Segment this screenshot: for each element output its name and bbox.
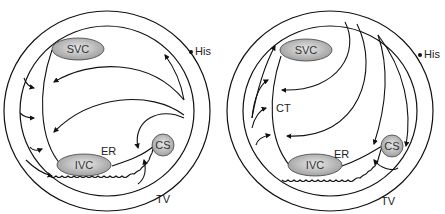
diagram-canvas: SVC IVC CS ER His TV SVC [0, 0, 445, 214]
his-label: His [195, 45, 211, 57]
arrow-left-1 [24, 78, 34, 88]
arrow-left-3 [30, 147, 42, 150]
crista-line [43, 50, 62, 166]
er-line [112, 145, 155, 166]
arrow-left-2 [20, 113, 34, 118]
his-dot [189, 50, 193, 54]
er-label: ER [334, 148, 349, 160]
arrow-left-up-4 [256, 135, 270, 145]
arrow-to-his [165, 55, 184, 100]
right-diagram: SVC IVC CS ER CT His TV [227, 11, 440, 211]
outer-ring [227, 11, 433, 211]
cs-label: CS [384, 140, 399, 152]
ct-label: CT [276, 102, 291, 114]
svc-label: SVC [67, 43, 90, 55]
arrow-up-cs [138, 160, 145, 184]
ivc-label: IVC [75, 159, 93, 171]
left-diagram: SVC IVC CS ER His TV [4, 11, 211, 211]
tv-label: TV [381, 195, 396, 207]
his-dot [418, 53, 422, 57]
tv-label: TV [156, 193, 171, 205]
er-label: ER [101, 145, 116, 157]
arrow-top-3 [374, 35, 385, 144]
his-label: His [424, 48, 440, 60]
svc-label: SVC [295, 44, 318, 56]
ivc-label: IVC [306, 159, 324, 171]
cs-label: CS [155, 139, 170, 151]
arrow-upper-sweep [54, 67, 184, 100]
arrow-left-up-3 [252, 108, 266, 128]
outer-ring [4, 11, 210, 211]
arrow-lower-sweep [54, 100, 184, 132]
